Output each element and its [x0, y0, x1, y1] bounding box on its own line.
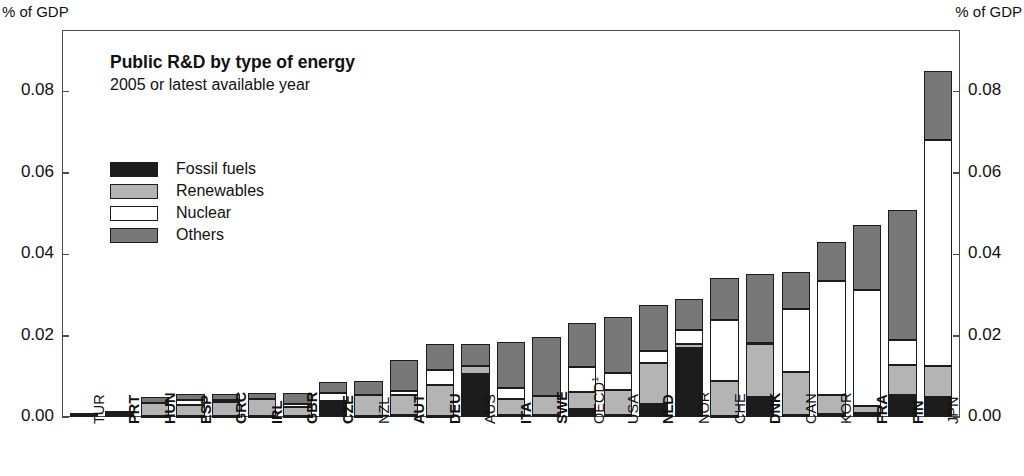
y-tick-label-left: 0.04 — [2, 243, 54, 263]
legend-label: Renewables — [176, 182, 264, 200]
bar-segment-others — [248, 393, 276, 398]
y-tick-mark-left — [62, 254, 69, 256]
bar-segment-others — [461, 344, 489, 366]
bar-segment-others — [497, 342, 525, 389]
y-tick-label-right: 0.02 — [968, 325, 1024, 345]
bar-segment-renewables — [888, 365, 916, 395]
legend-item: Others — [110, 224, 264, 246]
bar-fra — [853, 225, 881, 417]
bar-segment-nuclear — [604, 373, 632, 390]
bar-segment-others — [675, 299, 703, 330]
x-axis-label-oecd: OECD1 — [589, 377, 607, 424]
bar-segment-renewables — [675, 344, 703, 348]
bar-segment-others — [888, 210, 916, 340]
legend-swatch-fossil-fuels — [110, 162, 158, 177]
bar-segment-others — [354, 381, 382, 394]
legend-swatch-nuclear — [110, 206, 158, 221]
y-tick-label-right: 0.00 — [968, 406, 1024, 426]
x-axis-label-che: CHE — [732, 393, 748, 424]
bar-segment-nuclear — [853, 290, 881, 406]
x-axis-label-esp: ESP — [198, 395, 214, 424]
bar-segment-others — [853, 225, 881, 290]
x-axis-label-prt: PRT — [126, 395, 142, 424]
legend-swatch-others — [110, 228, 158, 243]
bar-segment-others — [532, 337, 560, 396]
y-tick-label-right: 0.06 — [968, 162, 1024, 182]
y-tick-label-right: 0.08 — [968, 80, 1024, 100]
bar-segment-renewables — [924, 366, 952, 397]
x-axis-label-nzl: NZL — [376, 397, 392, 424]
bar-segment-others — [782, 272, 810, 309]
y-tick-mark-left — [62, 172, 69, 174]
y-tick-label-right: 0.04 — [968, 243, 1024, 263]
x-axis-label-nor: NOR — [696, 392, 712, 424]
legend-item: Renewables — [110, 180, 264, 202]
y-axis-unit-left: % of GDP — [2, 3, 69, 20]
x-axis-label-dnk: DNK — [767, 393, 783, 424]
legend: Fossil fuelsRenewablesNuclearOthers — [110, 158, 264, 246]
bar-segment-others — [568, 323, 596, 367]
chart-root: % of GDP % of GDP 0.000.000.020.020.040.… — [0, 0, 1024, 476]
y-axis-unit-right: % of GDP — [955, 3, 1022, 20]
bar-segment-nuclear — [639, 351, 667, 363]
x-axis-label-footnote: 1 — [589, 377, 600, 382]
x-axis-label-ita: ITA — [518, 402, 534, 424]
bar-segment-nuclear — [675, 330, 703, 343]
bar-segment-others — [817, 242, 845, 282]
legend-label: Nuclear — [176, 204, 231, 222]
x-axis-label-nld: NLD — [660, 394, 676, 424]
x-axis-label-fra: FRA — [874, 394, 890, 424]
x-axis-label-swe: SWE — [554, 391, 570, 424]
bar-segment-nuclear — [817, 281, 845, 395]
x-axis-label-usa: USA — [625, 394, 641, 424]
y-tick-mark-right — [953, 254, 960, 256]
x-axis-label-deu: DEU — [447, 393, 463, 424]
bar-segment-others — [710, 278, 738, 320]
x-axis-label-aus: AUS — [482, 394, 498, 424]
bar-segment-others — [604, 317, 632, 373]
x-axis-label-aut: AUT — [411, 394, 427, 424]
bar-segment-nuclear — [710, 320, 738, 381]
bar-segment-renewables — [746, 344, 774, 397]
bar-jpn — [924, 71, 952, 417]
bar-segment-nuclear — [782, 309, 810, 372]
y-tick-label-left: 0.06 — [2, 162, 54, 182]
y-tick-mark-left — [62, 335, 69, 337]
bar-segment-others — [390, 360, 418, 391]
legend-label: Fossil fuels — [176, 160, 256, 178]
legend-swatch-renewables — [110, 184, 158, 199]
bar-fin — [888, 210, 916, 417]
y-tick-mark-left — [62, 417, 69, 419]
y-tick-mark-right — [953, 172, 960, 174]
x-axis-label-jpn: JPN — [945, 397, 961, 424]
bar-segment-nuclear — [746, 343, 774, 345]
bar-kor — [817, 242, 845, 417]
bar-segment-renewables — [461, 366, 489, 374]
bar-segment-others — [426, 344, 454, 370]
bar-segment-others — [639, 305, 667, 351]
bar-segment-others — [746, 274, 774, 342]
y-tick-mark-right — [953, 91, 960, 93]
y-tick-label-left: 0.02 — [2, 325, 54, 345]
x-axis-label-irl: IRL — [269, 401, 285, 424]
bar-segment-nuclear — [924, 140, 952, 366]
x-axis-label-can: CAN — [803, 393, 819, 424]
y-tick-label-left: 0.08 — [2, 80, 54, 100]
y-tick-label-left: 0.00 — [2, 406, 54, 426]
bar-segment-others — [319, 382, 347, 393]
bar-segment-nuclear — [426, 370, 454, 385]
bar-segment-others — [924, 71, 952, 140]
x-axis-label-fin: FIN — [910, 401, 926, 424]
y-tick-mark-left — [62, 91, 69, 93]
chart-title: Public R&D by type of energy — [110, 52, 355, 73]
x-axis-label-kor: KOR — [838, 393, 854, 424]
x-axis-label-grc: GRC — [233, 392, 249, 424]
x-axis-label-cze: CZE — [340, 395, 356, 424]
x-axis-label-gbr: GBR — [304, 392, 320, 424]
bar-segment-nuclear — [497, 388, 525, 399]
legend-label: Others — [176, 226, 224, 244]
x-axis-label-hun: HUN — [162, 393, 178, 424]
legend-item: Nuclear — [110, 202, 264, 224]
chart-subtitle: 2005 or latest available year — [110, 76, 310, 94]
y-tick-mark-right — [953, 335, 960, 337]
